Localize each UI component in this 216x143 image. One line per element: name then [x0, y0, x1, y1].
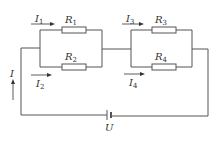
label-i4: I4 — [128, 77, 138, 90]
label-r1: R1 — [64, 14, 77, 27]
left-wire — [21, 48, 107, 115]
resistor-r3 — [152, 27, 176, 33]
parallel-block-2 — [131, 27, 192, 70]
resistor-r1 — [62, 27, 86, 33]
label-r3: R3 — [154, 14, 167, 27]
resistor-r4 — [152, 64, 176, 70]
parallel-block-1 — [40, 27, 102, 70]
label-r2: R2 — [64, 51, 77, 64]
battery-icon — [107, 110, 111, 120]
label-i2: I2 — [35, 78, 44, 91]
resistor-r2 — [62, 64, 86, 70]
arrow-i-icon — [11, 79, 15, 100]
label-u: U — [105, 122, 114, 133]
label-i: I — [9, 68, 15, 79]
circuit-diagram: I1 R1 R2 I2 I3 R3 R4 I4 I U — [0, 0, 216, 143]
arrow-i2-icon — [31, 73, 52, 77]
arrow-i4-icon — [124, 72, 145, 76]
label-r4: R4 — [154, 51, 168, 64]
